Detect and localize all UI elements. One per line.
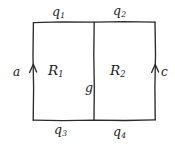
diagram-strokes bbox=[0, 0, 175, 148]
label-divider-g: g bbox=[85, 82, 93, 95]
diagram-canvas: q1 q2 q3 q4 R1 R2 a c g bbox=[0, 0, 175, 148]
rectangle-left-edge bbox=[33, 23, 34, 121]
label-side-c: c bbox=[161, 66, 168, 78]
label-q3-base: q bbox=[54, 122, 62, 137]
divider-line bbox=[94, 22, 95, 120]
label-region-r1-base: R bbox=[48, 62, 58, 78]
label-q1: q1 bbox=[52, 6, 65, 19]
label-region-r2-sub: 2 bbox=[120, 69, 125, 79]
rectangle-right-edge bbox=[155, 22, 156, 120]
label-q1-base: q bbox=[52, 4, 60, 19]
label-q2-base: q bbox=[113, 3, 121, 18]
label-region-r2: R2 bbox=[110, 64, 125, 78]
label-q3-sub: 3 bbox=[62, 129, 67, 138]
label-q2-sub: 2 bbox=[121, 10, 126, 19]
label-q4: q4 bbox=[113, 126, 126, 139]
label-region-r1-sub: 1 bbox=[58, 69, 63, 79]
label-q3: q3 bbox=[54, 124, 67, 137]
label-region-r2-base: R bbox=[110, 62, 120, 78]
label-q4-sub: 4 bbox=[121, 131, 126, 140]
label-q1-sub: 1 bbox=[60, 11, 65, 20]
label-side-a: a bbox=[13, 66, 20, 78]
label-q4-base: q bbox=[113, 124, 121, 139]
label-q2: q2 bbox=[113, 5, 126, 18]
label-region-r1: R1 bbox=[48, 64, 63, 78]
